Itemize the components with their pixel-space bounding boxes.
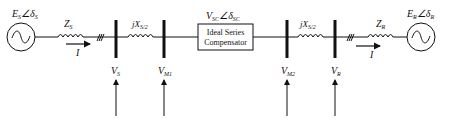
impedance-zs-coil	[58, 35, 83, 38]
current-label-left: I	[75, 47, 80, 58]
source-generator	[7, 23, 35, 51]
breaker-marks-left	[97, 34, 104, 41]
bus-vm1-label: VM1	[158, 65, 172, 77]
impedance-zr-label: ZR	[376, 18, 386, 30]
compensator-label-line2: Compensator	[204, 38, 247, 47]
bus-vr-label: VR	[331, 65, 341, 77]
compensator-label-line1: Ideal Series	[207, 28, 245, 37]
receiver-generator	[407, 23, 435, 51]
current-label-right: I	[369, 49, 374, 60]
receiver-voltage-label: ER∠δR	[406, 8, 434, 20]
bus-vm2-label: VM2	[281, 65, 295, 77]
reactance-left-label: jXS/2	[131, 19, 148, 30]
reactance-right-coil	[298, 35, 323, 38]
series-compensation-diagram: ES∠δS ZS I jXS/2 Ideal Series Compensato…	[0, 0, 453, 121]
reactance-left-coil	[128, 35, 153, 38]
source-voltage-label: ES∠δS	[11, 8, 38, 20]
impedance-zs-label: ZS	[64, 18, 73, 30]
ac-sine-icon	[412, 31, 430, 43]
impedance-zr-coil	[368, 35, 393, 38]
breaker-marks-right	[347, 34, 354, 41]
ac-sine-icon	[12, 31, 30, 43]
reactance-right-label: jXS/2	[299, 19, 316, 30]
bus-vs-label: VS	[111, 65, 120, 77]
compensator-voltage-label: VSC∠δSC	[206, 10, 241, 22]
